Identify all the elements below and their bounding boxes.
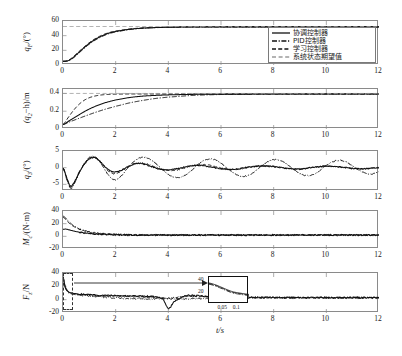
- xtick-label: 0: [52, 314, 72, 323]
- xtick-label: 2: [105, 314, 125, 323]
- xtick-label: 8: [263, 314, 283, 323]
- legend-label: 学习控制器: [291, 45, 328, 53]
- legend-item-4: 系统状态期望值: [271, 53, 373, 61]
- inset-series-1: [209, 283, 249, 294]
- inset-xtick-label: 0.1: [233, 304, 240, 310]
- legend-line-swatch: [271, 37, 291, 45]
- legend-line-swatch: [271, 45, 291, 53]
- legend-line-swatch: [271, 29, 291, 37]
- inset-canvas: [209, 277, 249, 304]
- xtick-label: 4: [157, 314, 177, 323]
- legend-item-1: 协调控制器: [271, 29, 373, 37]
- legend-label: 系统状态期望值: [291, 53, 342, 61]
- y-axis-label-5: Fz/N: [21, 256, 33, 328]
- xtick-label: 12: [368, 314, 388, 323]
- legend-label: 协调控制器: [291, 29, 328, 37]
- inset-source-box: [63, 273, 73, 310]
- legend-item-2: PID控制器: [271, 37, 373, 45]
- legend-item-3: 学习控制器: [271, 45, 373, 53]
- inset-arrow-icon: [74, 278, 208, 288]
- xtick-label: 6: [210, 314, 230, 323]
- legend-line-swatch: [271, 53, 291, 61]
- ytick-label: 40: [33, 267, 59, 276]
- legend-label: PID控制器: [291, 37, 326, 45]
- inset-ytick-label: 40: [198, 276, 204, 282]
- xtick-label: 10: [315, 314, 335, 323]
- figure-root: 0204060024681012qF/(°)00.20.4024681012(q…: [0, 0, 402, 356]
- inset-xtick-label: 0.05: [217, 304, 227, 310]
- ytick-label: 0: [33, 294, 59, 303]
- ytick-label: 20: [33, 280, 59, 289]
- legend: 协调控制器PID控制器学习控制器系统状态期望值: [268, 27, 376, 63]
- inset-plot: [208, 276, 248, 303]
- x-axis-label: t/s: [190, 325, 250, 335]
- inset-ytick-label: 20: [198, 288, 204, 294]
